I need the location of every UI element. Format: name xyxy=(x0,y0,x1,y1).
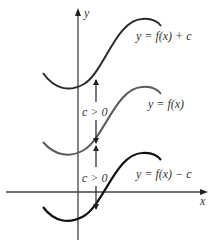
curve-label-original: y = f(x) xyxy=(147,97,184,111)
curve-label-shift-up: y = f(x) + c xyxy=(135,29,192,43)
x-axis-label: x xyxy=(199,194,206,208)
vertical-shift-diagram: y x y = f(x) + c y = f(x) y = f(x) − c c… xyxy=(0,0,212,247)
curve-original xyxy=(43,87,161,155)
y-axis-label: y xyxy=(83,6,90,20)
curve-shift-down xyxy=(43,153,161,221)
curve-label-shift-down: y = f(x) − c xyxy=(135,167,192,181)
lower-gap-label: c > 0 xyxy=(82,171,107,185)
upper-gap-label: c > 0 xyxy=(82,105,107,119)
